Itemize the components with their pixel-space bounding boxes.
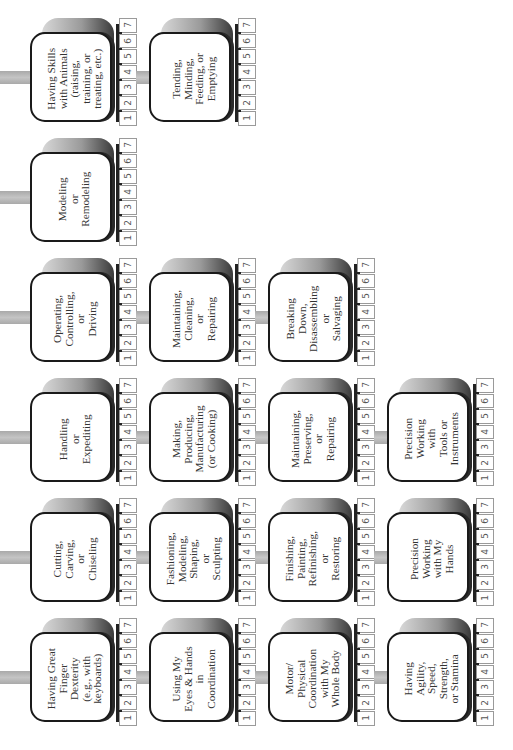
rating-box-6[interactable]: 6: [238, 274, 256, 289]
rating-box-3[interactable]: 3: [357, 560, 375, 575]
rating-box-3[interactable]: 3: [476, 680, 494, 695]
rating-box-2[interactable]: 2: [238, 336, 256, 351]
rating-box-4[interactable]: 4: [119, 305, 137, 320]
rating-box-7[interactable]: 7: [357, 258, 375, 273]
rating-box-4[interactable]: 4: [238, 305, 256, 320]
rating-box-1[interactable]: 1: [357, 711, 375, 726]
rating-box-5[interactable]: 5: [119, 409, 137, 424]
rating-box-5[interactable]: 5: [357, 529, 375, 544]
rating-box-2[interactable]: 2: [238, 576, 256, 591]
rating-box-2[interactable]: 2: [119, 696, 137, 711]
rating-box-5[interactable]: 5: [476, 529, 494, 544]
rating-box-7[interactable]: 7: [119, 138, 137, 153]
rating-box-2[interactable]: 2: [357, 336, 375, 351]
rating-box-7[interactable]: 7: [238, 378, 256, 393]
rating-box-1[interactable]: 1: [238, 471, 256, 486]
rating-box-4[interactable]: 4: [238, 545, 256, 560]
rating-box-7[interactable]: 7: [357, 498, 375, 513]
rating-box-1[interactable]: 1: [119, 111, 137, 126]
rating-box-1[interactable]: 1: [357, 591, 375, 606]
rating-box-2[interactable]: 2: [119, 96, 137, 111]
rating-box-4[interactable]: 4: [119, 665, 137, 680]
rating-box-1[interactable]: 1: [238, 351, 256, 366]
rating-box-4[interactable]: 4: [119, 545, 137, 560]
rating-box-3[interactable]: 3: [119, 200, 137, 215]
rating-box-6[interactable]: 6: [238, 34, 256, 49]
rating-box-7[interactable]: 7: [476, 378, 494, 393]
rating-box-1[interactable]: 1: [238, 711, 256, 726]
rating-box-4[interactable]: 4: [119, 185, 137, 200]
rating-box-5[interactable]: 5: [119, 529, 137, 544]
rating-box-1[interactable]: 1: [357, 351, 375, 366]
rating-box-4[interactable]: 4: [357, 305, 375, 320]
rating-box-6[interactable]: 6: [357, 394, 375, 409]
rating-box-6[interactable]: 6: [476, 634, 494, 649]
rating-box-2[interactable]: 2: [119, 456, 137, 471]
rating-box-7[interactable]: 7: [119, 618, 137, 633]
rating-box-5[interactable]: 5: [119, 169, 137, 184]
rating-box-2[interactable]: 2: [119, 336, 137, 351]
rating-box-2[interactable]: 2: [476, 696, 494, 711]
rating-box-1[interactable]: 1: [119, 591, 137, 606]
rating-box-3[interactable]: 3: [238, 80, 256, 95]
rating-box-2[interactable]: 2: [357, 576, 375, 591]
rating-box-5[interactable]: 5: [357, 409, 375, 424]
rating-box-1[interactable]: 1: [119, 231, 137, 246]
rating-box-4[interactable]: 4: [476, 545, 494, 560]
rating-box-6[interactable]: 6: [119, 34, 137, 49]
rating-box-3[interactable]: 3: [357, 320, 375, 335]
rating-box-5[interactable]: 5: [119, 49, 137, 64]
rating-box-6[interactable]: 6: [119, 634, 137, 649]
rating-box-6[interactable]: 6: [238, 514, 256, 529]
rating-box-4[interactable]: 4: [119, 425, 137, 440]
rating-box-2[interactable]: 2: [476, 456, 494, 471]
rating-box-5[interactable]: 5: [476, 649, 494, 664]
rating-box-2[interactable]: 2: [119, 216, 137, 231]
rating-box-1[interactable]: 1: [119, 351, 137, 366]
rating-box-4[interactable]: 4: [119, 65, 137, 80]
rating-box-5[interactable]: 5: [119, 289, 137, 304]
rating-box-6[interactable]: 6: [119, 394, 137, 409]
rating-box-2[interactable]: 2: [357, 456, 375, 471]
rating-box-6[interactable]: 6: [476, 514, 494, 529]
rating-box-3[interactable]: 3: [238, 440, 256, 455]
rating-box-3[interactable]: 3: [119, 680, 137, 695]
rating-box-3[interactable]: 3: [119, 320, 137, 335]
rating-box-7[interactable]: 7: [357, 618, 375, 633]
rating-box-2[interactable]: 2: [476, 576, 494, 591]
rating-box-1[interactable]: 1: [238, 591, 256, 606]
rating-box-1[interactable]: 1: [119, 711, 137, 726]
rating-box-7[interactable]: 7: [357, 378, 375, 393]
rating-box-6[interactable]: 6: [238, 394, 256, 409]
rating-box-6[interactable]: 6: [119, 274, 137, 289]
rating-box-3[interactable]: 3: [357, 680, 375, 695]
rating-box-4[interactable]: 4: [357, 545, 375, 560]
rating-box-2[interactable]: 2: [238, 96, 256, 111]
rating-box-3[interactable]: 3: [476, 560, 494, 575]
rating-box-2[interactable]: 2: [119, 576, 137, 591]
rating-box-4[interactable]: 4: [238, 65, 256, 80]
rating-box-6[interactable]: 6: [476, 394, 494, 409]
rating-box-6[interactable]: 6: [238, 634, 256, 649]
rating-box-3[interactable]: 3: [238, 320, 256, 335]
rating-box-7[interactable]: 7: [238, 498, 256, 513]
rating-box-5[interactable]: 5: [238, 649, 256, 664]
rating-box-1[interactable]: 1: [119, 471, 137, 486]
rating-box-5[interactable]: 5: [119, 649, 137, 664]
rating-box-4[interactable]: 4: [238, 425, 256, 440]
rating-box-3[interactable]: 3: [238, 560, 256, 575]
rating-box-3[interactable]: 3: [119, 560, 137, 575]
rating-box-5[interactable]: 5: [238, 529, 256, 544]
rating-box-5[interactable]: 5: [476, 409, 494, 424]
rating-box-3[interactable]: 3: [119, 80, 137, 95]
rating-box-5[interactable]: 5: [238, 409, 256, 424]
rating-box-3[interactable]: 3: [119, 440, 137, 455]
rating-box-1[interactable]: 1: [476, 591, 494, 606]
rating-box-7[interactable]: 7: [238, 258, 256, 273]
rating-box-7[interactable]: 7: [119, 378, 137, 393]
rating-box-7[interactable]: 7: [119, 498, 137, 513]
rating-box-6[interactable]: 6: [357, 514, 375, 529]
rating-box-5[interactable]: 5: [357, 649, 375, 664]
rating-box-1[interactable]: 1: [476, 471, 494, 486]
rating-box-7[interactable]: 7: [476, 618, 494, 633]
